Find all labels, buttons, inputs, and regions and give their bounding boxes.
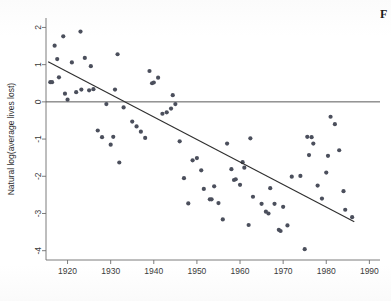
data-point	[109, 143, 113, 147]
data-point	[178, 139, 182, 143]
data-point	[96, 128, 100, 132]
data-point	[320, 197, 324, 201]
data-point	[248, 136, 252, 140]
data-point	[57, 75, 61, 79]
x-tick-label: 1930	[101, 266, 120, 276]
x-tick-label: 1920	[58, 266, 77, 276]
data-point	[130, 119, 134, 123]
linear-trend	[48, 62, 354, 222]
data-point	[247, 223, 251, 227]
data-point	[50, 80, 54, 84]
y-tick-label: -3	[33, 209, 43, 217]
x-tick-label: 1960	[231, 266, 250, 276]
data-point	[290, 175, 294, 179]
data-point	[61, 34, 65, 38]
data-point	[337, 148, 341, 152]
data-point	[221, 217, 225, 221]
scatter-plot: 210-1-2-3-419201930194019501960197019801…	[0, 0, 391, 301]
x-tick-label: 1980	[317, 266, 336, 276]
data-point	[65, 98, 69, 102]
data-point	[328, 115, 332, 119]
data-point	[173, 102, 177, 106]
x-tick-label: 1940	[144, 266, 163, 276]
data-point	[113, 87, 117, 91]
data-point	[195, 156, 199, 160]
data-point	[341, 189, 345, 193]
data-point	[134, 124, 138, 128]
data-point	[266, 211, 270, 215]
data-point	[272, 202, 276, 206]
data-point	[139, 130, 143, 134]
data-point	[229, 167, 233, 171]
data-point	[350, 215, 354, 219]
data-point	[78, 29, 82, 33]
data-point	[104, 102, 108, 106]
data-point	[152, 80, 156, 84]
data-point	[234, 177, 238, 181]
data-point	[343, 208, 347, 212]
data-point	[70, 60, 74, 64]
y-tick-label: -2	[33, 172, 43, 180]
data-point	[310, 135, 314, 139]
data-point	[165, 110, 169, 114]
data-point-group	[48, 29, 354, 251]
figure-container: 210-1-2-3-419201930194019501960197019801…	[0, 0, 391, 301]
data-point	[83, 56, 87, 60]
data-point	[55, 57, 59, 61]
data-point	[285, 223, 289, 227]
data-point	[199, 168, 203, 172]
data-point	[87, 88, 91, 92]
data-point	[147, 69, 151, 73]
data-point	[298, 174, 302, 178]
data-point	[303, 247, 307, 251]
data-point	[117, 160, 121, 164]
data-point	[278, 229, 282, 233]
figure-caption-fragment: F	[380, 7, 390, 22]
data-point	[212, 184, 216, 188]
x-tick-label: 1990	[360, 266, 379, 276]
data-point	[74, 90, 78, 94]
x-tick-label: 1970	[274, 266, 293, 276]
data-point	[111, 135, 115, 139]
data-point	[186, 201, 190, 205]
data-point	[238, 183, 242, 187]
y-tick-label: -4	[33, 247, 43, 255]
data-point	[311, 141, 315, 145]
data-point	[53, 44, 57, 48]
data-point	[324, 170, 328, 174]
data-point	[268, 186, 272, 190]
data-point	[225, 141, 229, 145]
data-point	[281, 205, 285, 209]
data-point	[216, 201, 220, 205]
data-point	[115, 52, 119, 56]
y-tick-label: -1	[33, 135, 43, 143]
data-point	[209, 197, 213, 201]
data-point	[100, 135, 104, 139]
data-point	[63, 92, 67, 96]
data-point	[171, 93, 175, 97]
data-point	[202, 187, 206, 191]
x-tick-label: 1950	[187, 266, 206, 276]
data-point	[89, 64, 93, 68]
data-point	[169, 106, 173, 110]
data-point	[160, 112, 164, 116]
y-tick-label: 0	[33, 99, 43, 104]
data-point	[242, 166, 246, 170]
data-point	[79, 87, 83, 91]
data-point	[91, 87, 95, 91]
y-tick-label: 2	[33, 25, 43, 30]
data-point	[122, 105, 126, 109]
data-point	[316, 183, 320, 187]
y-axis-title: Natural log(average lives lost)	[6, 83, 16, 196]
data-point	[305, 135, 309, 139]
data-point	[259, 202, 263, 206]
data-point	[143, 136, 147, 140]
data-point	[326, 154, 330, 158]
data-point	[251, 195, 255, 199]
data-point	[182, 176, 186, 180]
data-point	[156, 76, 160, 80]
data-point	[191, 158, 195, 162]
data-point	[307, 153, 311, 157]
data-point	[333, 122, 337, 126]
y-tick-label: 1	[33, 62, 43, 67]
